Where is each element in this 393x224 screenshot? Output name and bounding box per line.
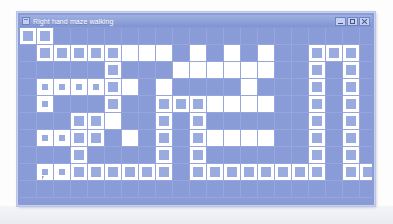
maze-cell-empty — [173, 181, 190, 198]
maze-cell-visited — [360, 164, 372, 181]
maze-cell-empty — [275, 181, 292, 198]
maze-cell-empty — [20, 96, 37, 113]
maze-cell-visited — [173, 96, 190, 113]
maze-cell-empty — [139, 28, 156, 45]
maze-cell-empty — [139, 62, 156, 79]
maze-cell-empty — [326, 62, 343, 79]
minimize-button[interactable] — [335, 17, 346, 26]
maze-cell-empty — [224, 113, 241, 130]
maze-cell-empty — [122, 113, 139, 130]
maze-cell-empty — [241, 147, 258, 164]
maze-cell-visited — [122, 164, 139, 181]
maze-cell-visited — [156, 96, 173, 113]
maze-cell-visited — [190, 113, 207, 130]
maze-cell-empty — [241, 181, 258, 198]
maze-cell-visited — [190, 147, 207, 164]
maze-cell-empty — [360, 181, 372, 198]
maze-cell-empty — [309, 181, 326, 198]
maze-cell-visited — [37, 45, 54, 62]
maze-cell-empty — [88, 28, 105, 45]
maze-cell-empty — [224, 79, 241, 96]
maze-cell-empty — [275, 147, 292, 164]
maze-cell-visited — [343, 45, 360, 62]
maze-cell-empty — [292, 62, 309, 79]
window-title: Right hand maze walking — [33, 17, 334, 26]
maze-cell-empty — [326, 96, 343, 113]
maze-cell-open — [207, 96, 224, 113]
maze-cell-visited — [190, 130, 207, 147]
maze-cell-empty — [190, 181, 207, 198]
maze-cell-empty — [258, 28, 275, 45]
maze-cell-empty — [54, 147, 71, 164]
maze-cell-empty — [326, 147, 343, 164]
maze-cell-empty — [275, 130, 292, 147]
maze-cell-empty — [54, 28, 71, 45]
maze-canvas[interactable] — [20, 28, 372, 203]
maze-cell-open — [258, 62, 275, 79]
maze-cell-open — [241, 62, 258, 79]
maze-cell-visited — [343, 113, 360, 130]
maze-cell-empty — [54, 113, 71, 130]
maze-cell-marked — [54, 130, 71, 147]
maze-cell-empty — [20, 130, 37, 147]
maze-cell-visited — [156, 113, 173, 130]
maze-cell-visited — [309, 113, 326, 130]
close-button[interactable] — [359, 17, 370, 26]
maze-cell-empty — [292, 113, 309, 130]
maze-cell-empty — [20, 45, 37, 62]
maze-cell-empty — [37, 181, 54, 198]
maze-cell-visited — [88, 164, 105, 181]
maze-cell-empty — [258, 113, 275, 130]
maze-cell-visited — [139, 164, 156, 181]
maze-cell-empty — [173, 130, 190, 147]
maze-cell-empty — [20, 164, 37, 181]
maze-cell-empty — [190, 28, 207, 45]
maze-cell-open — [241, 79, 258, 96]
maze-cell-open — [122, 45, 139, 62]
maze-cell-empty — [309, 28, 326, 45]
title-bar[interactable]: Right hand maze walking — [20, 15, 372, 27]
maze-cell-open — [190, 62, 207, 79]
maze-cell-open — [173, 62, 190, 79]
maze-cell-visited — [241, 164, 258, 181]
maze-cell-open — [224, 45, 241, 62]
maze-cell-visited — [309, 130, 326, 147]
maze-cell-empty — [224, 181, 241, 198]
maze-cell-empty — [326, 164, 343, 181]
maze-cell-visited — [71, 130, 88, 147]
maze-cell-empty — [54, 62, 71, 79]
maze-cell-empty — [173, 147, 190, 164]
maze-cell-marked — [37, 96, 54, 113]
maze-cell-marked — [71, 79, 88, 96]
maze-cell-empty — [122, 181, 139, 198]
maze-cell-empty — [207, 79, 224, 96]
maze-cell-visited — [309, 79, 326, 96]
maze-cell-visited — [105, 79, 122, 96]
maze-cell-empty — [326, 181, 343, 198]
maze-cell-empty — [275, 45, 292, 62]
maze-cell-marked — [37, 79, 54, 96]
maze-cell-empty — [326, 113, 343, 130]
maze-cell-visited — [309, 96, 326, 113]
maze-cell-empty — [360, 79, 372, 96]
maze-cell-visited — [105, 45, 122, 62]
maze-cell-empty — [326, 130, 343, 147]
maze-cell-empty — [139, 181, 156, 198]
maximize-button[interactable] — [347, 17, 358, 26]
maze-window-icon — [22, 17, 30, 25]
maze-cell-empty — [105, 130, 122, 147]
maze-cell-visited — [292, 164, 309, 181]
maze-cell-empty — [326, 79, 343, 96]
maze-cell-empty — [156, 62, 173, 79]
maze-cell-visited — [156, 164, 173, 181]
maze-cell-visited — [343, 130, 360, 147]
maze-cell-empty — [20, 181, 37, 198]
maze-cell-empty — [71, 181, 88, 198]
maze-cell-empty — [173, 28, 190, 45]
maze-cell-open — [224, 96, 241, 113]
maze-cell-empty — [88, 147, 105, 164]
maze-cell-empty — [54, 181, 71, 198]
maze-grid — [20, 28, 372, 198]
maze-cell-open — [258, 130, 275, 147]
maze-cell-empty — [122, 96, 139, 113]
